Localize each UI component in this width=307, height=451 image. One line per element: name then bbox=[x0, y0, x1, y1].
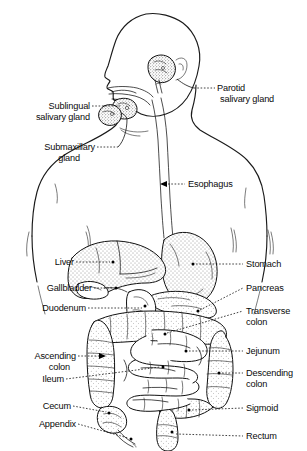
label-ascending-colon-line1: Ascending bbox=[34, 351, 76, 361]
label-appendix: Appendix bbox=[39, 419, 77, 429]
label-submaxillary-line2: gland bbox=[58, 153, 80, 163]
label-transverse-colon-line1: Transverse bbox=[246, 306, 290, 316]
label-esophagus: Esophagus bbox=[188, 179, 233, 189]
label-parotid-line2: salivary gland bbox=[220, 94, 274, 104]
label-ileum: Ileum bbox=[42, 374, 64, 384]
label-gallbladder: Gallbladder bbox=[47, 283, 92, 293]
label-transverse-colon-line2: colon bbox=[246, 317, 267, 327]
label-descending-colon-line2: colon bbox=[246, 379, 267, 389]
label-stomach: Stomach bbox=[246, 259, 281, 269]
digestive-system-figure: Parotid salivary gland Esophagus Stomach… bbox=[0, 0, 307, 451]
label-rectum: Rectum bbox=[246, 431, 277, 441]
label-submaxillary-line1: Submaxillary bbox=[44, 142, 95, 152]
submaxillary-gland-organ bbox=[99, 105, 122, 126]
label-pancreas: Pancreas bbox=[246, 283, 284, 293]
label-sublingual-line2: salivary gland bbox=[36, 112, 90, 122]
label-parotid-line1: Parotid bbox=[217, 83, 245, 93]
label-sublingual-line1: Sublingual bbox=[49, 101, 91, 111]
label-sigmoid: Sigmoid bbox=[246, 403, 278, 413]
label-liver: Liver bbox=[55, 257, 74, 267]
label-descending-colon-line1: Descending bbox=[246, 368, 293, 378]
label-cecum: Cecum bbox=[43, 401, 72, 411]
label-jejunum: Jejunum bbox=[246, 346, 280, 356]
label-ascending-colon-line2: colon bbox=[49, 362, 70, 372]
label-duodenum: Duodenum bbox=[42, 303, 86, 313]
